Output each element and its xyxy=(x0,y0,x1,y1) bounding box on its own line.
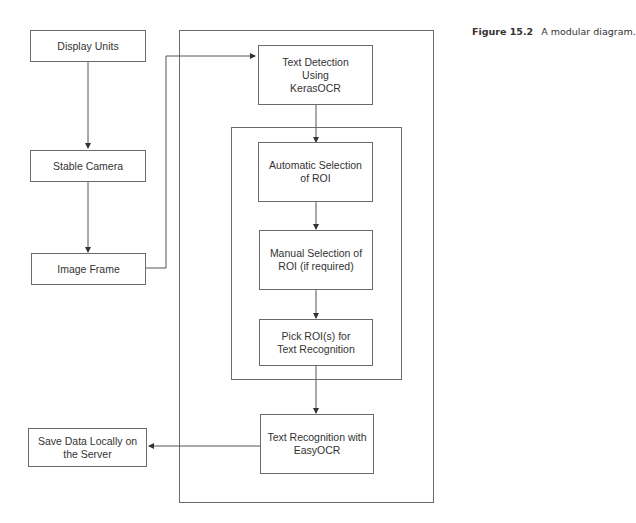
node-text-detection: Text Detection Using KerasOCR xyxy=(258,45,373,105)
figure-caption: Figure 15.2A modular diagram. xyxy=(472,26,636,37)
node-label: Pick ROI(s) for Text Recognition xyxy=(272,330,360,356)
node-label: Display Units xyxy=(57,40,118,53)
node-label: Manual Selection of ROI (if required) xyxy=(261,247,371,273)
figure-number: Figure 15.2 xyxy=(472,26,533,37)
node-label: Automatic Selection of ROI xyxy=(269,159,362,185)
node-label: Text Detection Using KerasOCR xyxy=(277,56,354,95)
node-stable-camera: Stable Camera xyxy=(30,150,146,182)
node-label: Stable Camera xyxy=(53,160,123,173)
node-pick-roi: Pick ROI(s) for Text Recognition xyxy=(259,319,373,366)
node-text-recognition: Text Recognition with EasyOCR xyxy=(260,414,374,474)
node-label: Text Recognition with EasyOCR xyxy=(267,431,367,457)
edge-frame-to-detection xyxy=(145,56,255,268)
figure-title: A modular diagram. xyxy=(541,26,636,37)
node-automatic-roi: Automatic Selection of ROI xyxy=(258,142,373,202)
node-image-frame: Image Frame xyxy=(31,253,146,285)
node-label: Image Frame xyxy=(57,263,119,276)
node-save-data: Save Data Locally on the Server xyxy=(28,428,147,467)
node-display-units: Display Units xyxy=(30,30,146,62)
node-manual-roi: Manual Selection of ROI (if required) xyxy=(259,230,373,290)
node-label: Save Data Locally on the Server xyxy=(31,435,144,461)
